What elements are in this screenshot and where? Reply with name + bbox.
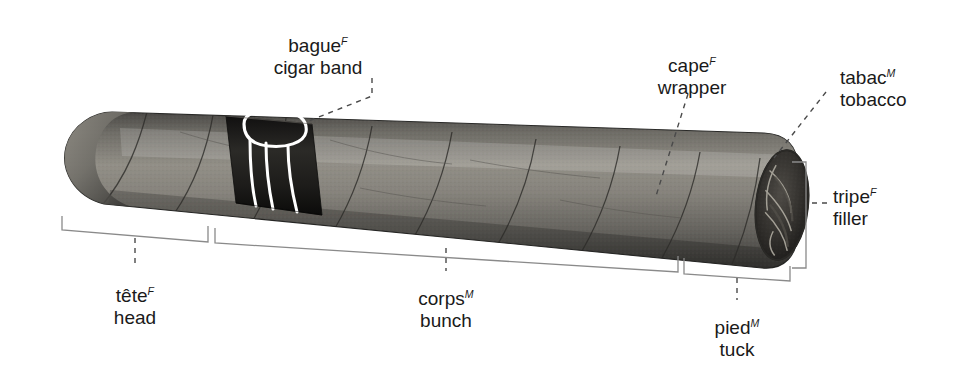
figure-canvas: bagueF cigar band capeF wrapper tabacM t…	[0, 0, 958, 383]
label-corps: corpsM bunch	[418, 283, 473, 332]
label-tabac-gender: M	[886, 67, 895, 79]
label-tabac: tabacM tobacco	[840, 62, 907, 111]
label-corps-term: corps	[418, 288, 464, 309]
label-pied-gender: M	[750, 317, 759, 329]
label-tabac-english: tobacco	[840, 89, 907, 111]
label-pied-english: tuck	[715, 339, 760, 361]
label-tripe-gender: F	[870, 186, 877, 198]
label-cape-term: cape	[668, 55, 709, 76]
label-bague-term: bague	[288, 35, 341, 56]
label-bague: bagueF cigar band	[274, 30, 363, 79]
label-corps-english: bunch	[418, 310, 473, 332]
cigar-body	[50, 100, 820, 290]
label-tripe-english: filler	[833, 208, 877, 230]
tabac-leader	[774, 92, 826, 158]
label-tete-english: head	[114, 307, 156, 329]
label-cape-english: wrapper	[658, 77, 727, 99]
bague-leader	[306, 78, 372, 122]
cigar-band	[226, 110, 322, 215]
label-bague-english: cigar band	[274, 57, 363, 79]
label-bague-gender: F	[341, 35, 348, 47]
label-corps-gender: M	[465, 288, 474, 300]
label-tete-term: tête	[116, 285, 148, 306]
label-cape: capeF wrapper	[658, 50, 727, 99]
label-tripe: tripeF filler	[833, 181, 877, 230]
label-tripe-term: tripe	[833, 186, 870, 207]
label-pied: piedM tuck	[715, 312, 760, 361]
label-pied-term: pied	[715, 317, 751, 338]
label-tabac-term: tabac	[840, 67, 886, 88]
label-cape-gender: F	[709, 55, 716, 67]
label-tete-gender: F	[148, 285, 155, 297]
label-tete: têteF head	[114, 280, 156, 329]
